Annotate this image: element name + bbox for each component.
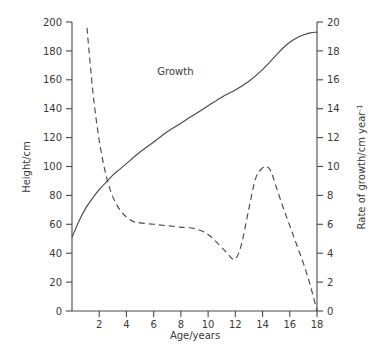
right-tick-label: 6	[327, 219, 333, 230]
right-tick-label: 10	[327, 161, 340, 172]
left-tick-label: 180	[43, 46, 62, 57]
left-tick-label: 0	[56, 306, 62, 317]
x-tick-label: 2	[96, 319, 102, 330]
right-tick-label: 4	[327, 248, 333, 259]
x-tick-label: 18	[311, 319, 324, 330]
right-tick-label: 18	[327, 46, 340, 57]
left-tick-label: 60	[49, 219, 62, 230]
left-tick-label: 20	[49, 277, 62, 288]
right-tick-label: 20	[327, 17, 340, 28]
x-tick-label: 12	[229, 319, 242, 330]
left-tick-label: 120	[43, 132, 62, 143]
series-annotation-1: Growth	[157, 66, 193, 77]
left-tick-label: 160	[43, 74, 62, 85]
left-tick-label: 200	[43, 17, 62, 28]
chart-container: 020406080100120140160180200 024681012141…	[0, 0, 374, 345]
left-y-axis-ticks: 020406080100120140160180200	[43, 17, 72, 317]
growth-chart-svg: 020406080100120140160180200 024681012141…	[0, 0, 374, 345]
x-tick-label: 6	[150, 319, 156, 330]
right-tick-label: 16	[327, 74, 340, 85]
right-axis-title-text: Rate of growth/cm year	[356, 111, 367, 230]
x-tick-label: 14	[256, 319, 269, 330]
right-tick-label: 0	[327, 306, 333, 317]
growth-series-curve	[72, 32, 317, 237]
x-tick-label: 8	[178, 319, 184, 330]
left-axis-title: Height/cm	[21, 141, 32, 193]
x-tick-label: 16	[283, 319, 296, 330]
right-y-axis-ticks: 02468101214161820	[317, 17, 340, 317]
x-tick-label: 4	[123, 319, 129, 330]
right-tick-label: 12	[327, 132, 340, 143]
series-annotations: GrowthGrowth rate	[113, 0, 194, 77]
right-tick-label: 8	[327, 190, 333, 201]
left-tick-label: 40	[49, 248, 62, 259]
growth-rate-series-curve	[87, 28, 317, 311]
right-tick-label: 14	[327, 103, 340, 114]
left-tick-label: 80	[49, 190, 62, 201]
left-tick-label: 100	[43, 161, 62, 172]
x-tick-label: 10	[202, 319, 215, 330]
x-axis-ticks: 24681012141618	[96, 311, 323, 330]
x-axis-title: Age/years	[170, 330, 220, 341]
right-tick-label: 2	[327, 277, 333, 288]
right-axis-title-superscript: -1	[356, 105, 364, 112]
right-axis-title: Rate of growth/cm year-1	[356, 105, 367, 230]
left-tick-label: 140	[43, 103, 62, 114]
